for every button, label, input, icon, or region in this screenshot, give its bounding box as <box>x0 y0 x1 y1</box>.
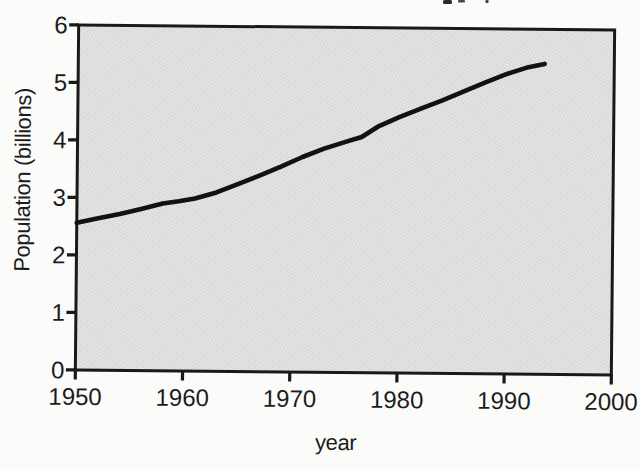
population-chart: 0123456 195019601970198019902000 Populat… <box>0 0 640 470</box>
scanned-chart-page: 0123456 195019601970198019902000 Populat… <box>0 0 640 470</box>
plot-area <box>75 25 614 375</box>
y-axis-tick-labels: 0123456 <box>51 11 68 383</box>
x-tick-label: 1970 <box>263 385 317 413</box>
x-axis-label: year <box>315 430 357 455</box>
y-tick-label: 5 <box>54 69 68 96</box>
y-tick-label: 0 <box>51 356 65 383</box>
y-tick-label: 6 <box>54 11 68 38</box>
scan-artifacts <box>443 0 489 4</box>
y-tick-label: 2 <box>52 241 66 268</box>
y-axis-label: Population (billions) <box>9 88 36 272</box>
x-tick-label: 1960 <box>155 384 209 412</box>
scan-speck <box>443 0 452 4</box>
x-tick-label: 1990 <box>477 387 531 415</box>
y-tick-label: 1 <box>51 299 65 326</box>
x-tick-label: 1950 <box>48 383 102 411</box>
chart-body: 0123456 195019601970198019902000 Populat… <box>8 11 640 458</box>
x-tick-label: 2000 <box>584 388 638 416</box>
x-tick-label: 1980 <box>370 386 424 414</box>
x-axis-tick-labels: 195019601970198019902000 <box>48 383 638 416</box>
scan-speck <box>485 0 488 3</box>
y-tick-label: 3 <box>53 184 67 211</box>
y-tick-label: 4 <box>53 126 67 153</box>
scan-speck <box>458 0 465 3</box>
